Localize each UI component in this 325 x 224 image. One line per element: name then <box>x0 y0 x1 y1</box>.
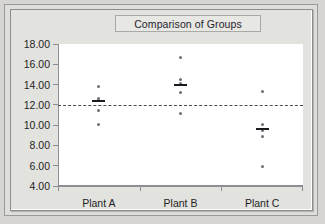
y-tick-label: 18.00 <box>10 38 53 50</box>
chart-screenshot-root: Comparison of Groups 18.0016.0014.0012.0… <box>0 0 325 224</box>
x-axis-category-label: Plant C <box>245 197 279 209</box>
x-axis-line <box>58 186 303 187</box>
x-tick-mark <box>58 186 59 191</box>
y-tick-label: 14.00 <box>10 79 53 91</box>
x-tick-mark <box>302 186 303 191</box>
x-axis-category-label: Plant A <box>82 197 115 209</box>
y-tick-label: 4.00 <box>10 180 53 192</box>
y-tick-mark <box>53 165 58 166</box>
y-tick: 6.00 <box>10 160 58 172</box>
y-tick-mark <box>53 145 58 146</box>
y-tick: 4.00 <box>10 180 58 192</box>
plot-wrap: 18.0016.0014.0012.0010.008.006.004.00 Pl… <box>58 44 303 186</box>
chart-title-box: Comparison of Groups <box>115 15 261 32</box>
y-tick-label: 16.00 <box>10 58 53 70</box>
y-tick: 14.00 <box>10 79 58 91</box>
group-mean-marker <box>256 128 269 130</box>
y-tick-label: 6.00 <box>10 160 53 172</box>
data-point <box>261 123 264 126</box>
data-point <box>261 90 264 93</box>
y-tick-label: 8.00 <box>10 139 53 151</box>
x-axis-category-label: Plant B <box>164 197 198 209</box>
figure-panel: Comparison of Groups 18.0016.0014.0012.0… <box>10 9 313 211</box>
y-tick-label: 10.00 <box>10 119 53 131</box>
y-tick-mark <box>53 84 58 85</box>
y-tick: 8.00 <box>10 139 58 151</box>
group-mean-marker <box>174 84 187 86</box>
y-tick-mark <box>53 125 58 126</box>
data-point <box>179 78 182 81</box>
x-tick-mark <box>140 186 141 191</box>
grand-mean-line <box>58 105 303 106</box>
y-tick: 16.00 <box>10 58 58 70</box>
group-mean-marker <box>92 100 105 102</box>
chart-title: Comparison of Groups <box>134 18 242 30</box>
y-tick-mark <box>53 44 58 45</box>
x-tick-mark <box>221 186 222 191</box>
y-tick-label: 12.00 <box>10 99 53 111</box>
data-point <box>261 135 264 138</box>
y-tick: 12.00 <box>10 99 58 111</box>
y-tick: 10.00 <box>10 119 58 131</box>
data-point <box>261 165 264 168</box>
y-tick-mark <box>53 64 58 65</box>
data-point <box>179 56 182 59</box>
y-tick: 18.00 <box>10 38 58 50</box>
